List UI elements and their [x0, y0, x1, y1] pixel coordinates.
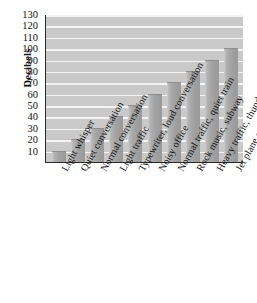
- y-axis-tick-label: 110: [23, 33, 38, 43]
- y-axis-tick-label: 30: [28, 124, 39, 134]
- y-axis-tick-label: 80: [28, 67, 39, 77]
- y-axis-tick-label: 20: [28, 135, 39, 145]
- y-axis-tick-label: 10: [28, 147, 39, 157]
- y-axis-tick-labels: 130120110100908070605040302010: [0, 15, 41, 163]
- x-axis-category-labels: Light whisperQuiet conversationNormal co…: [45, 164, 243, 303]
- y-axis-tick-label: 70: [28, 78, 39, 88]
- y-axis-tick-label: 130: [22, 10, 38, 20]
- y-axis-tick-label: 50: [28, 101, 39, 111]
- y-axis-tick-label: 100: [22, 44, 38, 54]
- y-axis-tick-label: 40: [28, 112, 39, 122]
- bar-chart: Decibels 130120110100908070605040302010 …: [0, 0, 257, 303]
- y-axis-tick-label: 120: [22, 21, 38, 31]
- bar-slot: [49, 15, 68, 162]
- y-axis-tick-label: 60: [28, 90, 39, 100]
- y-axis-tick-label: 90: [28, 56, 39, 66]
